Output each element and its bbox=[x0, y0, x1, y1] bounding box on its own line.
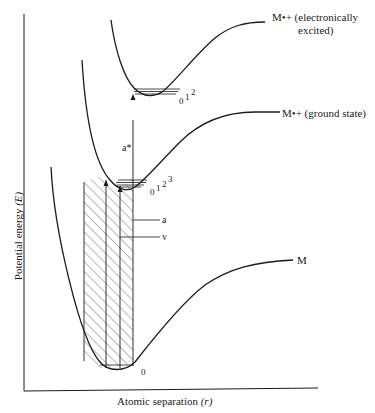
ion-level-2: 2 bbox=[162, 178, 167, 190]
neutral-level-0-label: 0 bbox=[141, 366, 146, 378]
curve-m-ion-excited bbox=[111, 20, 265, 95]
axes bbox=[24, 14, 318, 391]
ion-level-1: 1 bbox=[156, 182, 161, 194]
excited-level-2: 2 bbox=[191, 86, 196, 98]
label-transition-v: v bbox=[162, 231, 167, 243]
ion-level-3: 3 bbox=[168, 173, 173, 185]
x-axis bbox=[24, 388, 318, 391]
excited-level-0: 0 bbox=[179, 95, 184, 107]
potential-energy-diagram bbox=[0, 0, 375, 413]
y-axis-label: Potential energy (E) bbox=[12, 181, 24, 291]
label-transition-a: a bbox=[162, 214, 166, 226]
franck-condon-region bbox=[84, 120, 133, 368]
curve-m-ion-ground bbox=[82, 60, 280, 190]
ion-level-0: 0 bbox=[150, 186, 155, 198]
label-neutral-m: M bbox=[297, 254, 307, 266]
label-excited-line1: M•+ (electronically bbox=[272, 11, 358, 23]
label-ion-ground: M•+ (ground state) bbox=[282, 107, 366, 119]
label-transition-a-star: a* bbox=[122, 142, 131, 154]
excited-level-1: 1 bbox=[185, 91, 190, 103]
label-excited-line2: excited) bbox=[298, 24, 333, 36]
x-axis-label: Atomic separation (r) bbox=[117, 395, 212, 407]
